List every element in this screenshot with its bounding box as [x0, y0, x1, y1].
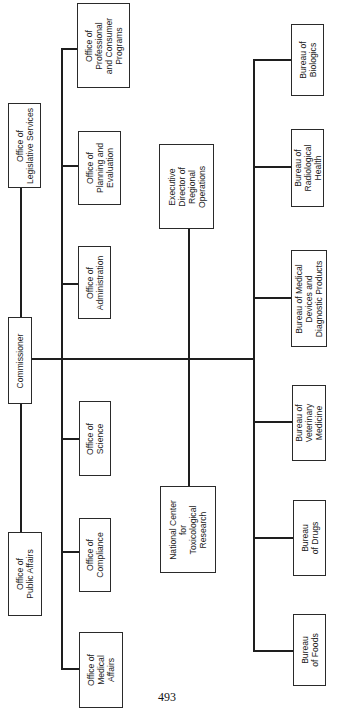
connector-planning	[61, 165, 78, 167]
box-bureau-biologics: Bureau of Biologics	[291, 24, 324, 96]
box-office-legislative-services: Office of Legislative Services	[8, 103, 41, 188]
box-bureau-foods: Bureau of Foods	[293, 614, 326, 686]
box-office-compliance: Office of Compliance	[79, 518, 111, 592]
label-nctr: National Center for Toxicological Resear…	[168, 500, 208, 560]
connector-main-horizontal	[32, 358, 255, 360]
connector-medical	[61, 668, 79, 670]
label-regional-operations: Executive Director of Regional Operation…	[167, 165, 207, 207]
connector-compliance	[61, 551, 79, 553]
box-office-science: Office of Science	[79, 401, 111, 476]
connector-biologics	[253, 59, 291, 61]
label-bureau-veterinary: Bureau of Veterinary Medicine	[294, 404, 324, 443]
box-office-medical-affairs: Office of Medical Affairs	[79, 632, 123, 708]
box-regional-operations: Executive Director of Regional Operation…	[159, 144, 214, 229]
label-commissioner: Commissioner	[15, 333, 25, 388]
box-bureau-devices: Bureau of Medical Devices and Diagnostic…	[291, 250, 327, 347]
box-office-public-affairs: Office of Public Affairs	[8, 532, 42, 616]
box-nctr: National Center for Toxicological Resear…	[160, 486, 216, 573]
box-bureau-veterinary: Bureau of Veterinary Medicine	[292, 385, 326, 461]
connector-offices-vertical	[61, 48, 63, 668]
box-bureau-drugs: Bureau of Drugs	[293, 500, 326, 576]
connector-administration	[61, 283, 78, 285]
box-office-planning-evaluation: Office of Planning and Evaluation	[78, 131, 121, 205]
connector-field-vertical	[188, 229, 190, 486]
label-bureau-biologics: Bureau of Biologics	[298, 41, 318, 78]
label-bureau-devices: Bureau of Medical Devices and Diagnostic…	[294, 260, 324, 336]
label-bureau-drugs: Bureau of Drugs	[300, 522, 320, 554]
connector-radiological	[253, 166, 291, 168]
box-bureau-radiological: Bureau of Radiological Health	[291, 129, 324, 207]
label-office-compliance: Office of Compliance	[85, 532, 105, 577]
connector-drugs	[253, 537, 293, 539]
box-commissioner: Commissioner	[8, 317, 32, 404]
connector-veterinary	[253, 421, 292, 423]
connector-science	[61, 438, 79, 440]
label-office-public-affairs: Office of Public Affairs	[15, 549, 35, 599]
box-office-professional-consumer: Office of Professional and Consumer Prog…	[77, 3, 130, 88]
connector-devices	[253, 297, 291, 299]
label-office-planning-evaluation: Office of Planning and Evaluation	[85, 143, 115, 193]
connector-bureaus-vertical	[253, 59, 255, 651]
label-office-administration: Office of Administration	[85, 255, 105, 309]
connector-foods	[253, 650, 293, 652]
label-office-legislative-services: Office of Legislative Services	[15, 108, 35, 184]
label-bureau-foods: Bureau of Foods	[300, 633, 320, 666]
label-office-science: Office of Science	[85, 423, 105, 455]
label-office-professional-consumer: Office of Professional and Consumer Prog…	[84, 17, 124, 73]
label-bureau-radiological: Bureau of Radiological Health	[293, 145, 323, 192]
box-office-administration: Office of Administration	[78, 246, 111, 319]
connector-professional	[61, 48, 78, 50]
label-office-medical-affairs: Office of Medical Affairs	[86, 654, 116, 686]
page-number: 493	[158, 690, 176, 705]
